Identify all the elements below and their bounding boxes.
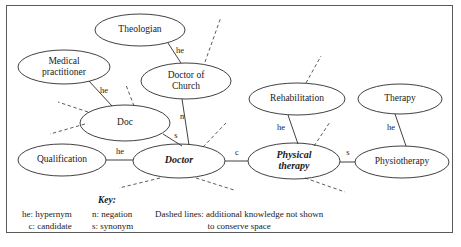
dashed-edge-physical-8 (314, 122, 330, 146)
edge-label-physical-physio: s (346, 147, 349, 157)
node-label-doctor-church: Church (172, 81, 200, 91)
edge-doctor-church-to-doctor (182, 99, 189, 145)
node-doctor[interactable]: Doctor (133, 144, 225, 178)
legend-item-he: he: hypernym (22, 208, 72, 220)
node-label-physical: therapy (278, 160, 310, 171)
node-rehabilitation[interactable]: Rehabilitation (249, 83, 345, 115)
node-label-medical: practitioner (42, 67, 87, 77)
dashed-edge-doc-3 (50, 124, 85, 134)
dashed-edge-doc-1 (126, 85, 134, 106)
edge-label-theologian-doctor-church: he (176, 45, 184, 55)
node-theologian[interactable]: Theologian (95, 14, 185, 46)
node-label-physio: Physiotherapy (375, 156, 430, 166)
legend-column-abbreviations-1: he: hypernym c: candidate (22, 208, 72, 232)
edge-label-doc-doctor: s (174, 130, 177, 140)
dashed-edge-doc-2 (58, 102, 88, 112)
node-label-doc: Doc (117, 117, 133, 127)
dashed-edge-doctor-4 (203, 123, 226, 147)
node-label-doctor-church: Doctor of (168, 70, 206, 80)
edge-label-medical-doc: he (100, 85, 108, 95)
node-label-physical: Physical (277, 149, 312, 160)
node-physio[interactable]: Physiotherapy (355, 146, 449, 178)
legend-dashed-note-line2: to conserve space (155, 220, 323, 232)
edge-therapy-to-physio (395, 114, 406, 146)
legend-item-n: n: negation (92, 208, 133, 220)
edge-label-therapy-physio: he (387, 122, 395, 132)
dashed-edge-doctor-6 (196, 178, 234, 190)
node-qualification[interactable]: Qualification (18, 144, 106, 176)
node-doctor-church[interactable]: Doctor ofChurch (141, 63, 231, 99)
edge-rehabilitation-to-physical (288, 115, 298, 144)
legend-key-title: Key: (98, 195, 116, 205)
dashed-edge-doctor-5 (119, 178, 160, 188)
edge-label-layer: hehenshechehes (100, 45, 395, 157)
node-medical[interactable]: Medicalpractitioner (18, 50, 110, 84)
diagram-canvas: TheologianMedicalpractitionerDoctor ofCh… (0, 0, 461, 247)
node-layer: TheologianMedicalpractitionerDoctor ofCh… (18, 14, 449, 179)
node-label-rehabilitation: Rehabilitation (270, 93, 324, 103)
dashed-edge-doctor-church-0 (205, 17, 221, 62)
legend-column-abbreviations-2: n: negation s: synonym (92, 208, 133, 232)
legend-dashed-note-line1: Dashed lines: additional knowledge not s… (155, 208, 323, 220)
node-therapy[interactable]: Therapy (358, 84, 442, 114)
node-label-theologian: Theologian (118, 24, 162, 34)
edge-label-rehabilitation-physical: he (277, 122, 285, 132)
node-label-therapy: Therapy (384, 93, 416, 103)
node-label-medical: Medical (48, 56, 79, 66)
node-physical[interactable]: Physicaltherapy (248, 143, 340, 179)
node-doc[interactable]: Doc (80, 105, 170, 141)
legend-item-s: s: synonym (92, 220, 133, 232)
edge-label-doctor-physical: c (235, 147, 239, 157)
node-label-qualification: Qualification (37, 154, 87, 164)
edge-label-qualification-doctor: he (116, 146, 124, 156)
node-label-doctor: Doctor (164, 154, 193, 165)
dashed-edge-physical-9 (305, 178, 345, 192)
legend-column-dashed-note: Dashed lines: additional knowledge not s… (155, 208, 323, 232)
dashed-edge-rehabilitation-7 (306, 56, 321, 83)
legend-item-c: c: candidate (22, 220, 72, 232)
edge-layer (89, 43, 406, 162)
